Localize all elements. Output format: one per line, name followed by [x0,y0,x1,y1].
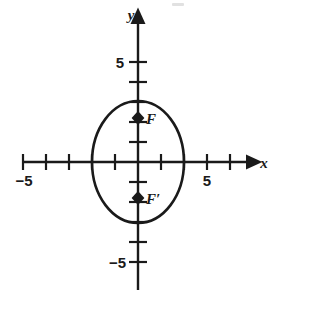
ellipse-graph: y x 5 −5 −5 5 F F′ [0,0,321,309]
focus-label-upper: F [145,111,156,127]
focus-label-lower: F′ [145,191,160,207]
y-tick-label--5: −5 [109,254,126,271]
y-axis-group [129,22,147,290]
x-tick-label-5: 5 [203,172,211,189]
y-tick-label-5: 5 [116,54,124,71]
y-axis-label: y [126,7,135,23]
x-axis-label: x [259,155,268,171]
figure-canvas: y x 5 −5 −5 5 F F′ [0,0,321,309]
x-tick-label--5: −5 [15,172,32,189]
x-axis-group [22,154,248,170]
